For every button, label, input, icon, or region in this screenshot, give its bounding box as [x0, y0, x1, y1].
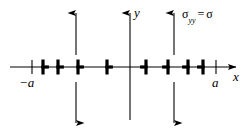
- dislocation-flag: [76, 65, 84, 68]
- tick-label-minus-a: −a: [19, 76, 34, 89]
- stress-arrows-up: [76, 13, 174, 55]
- dislocation-flag: [140, 65, 148, 68]
- stress-arrows-down: [76, 82, 174, 123]
- dislocation-right-facing: [56, 60, 64, 75]
- dislocation-left-facing: [197, 60, 205, 75]
- stress-equals: =: [196, 7, 207, 21]
- stress-subscript: yy: [188, 16, 195, 25]
- dislocation-right-facing: [41, 60, 49, 75]
- dislocation-right-facing: [105, 60, 113, 75]
- dislocation-flag: [56, 65, 64, 68]
- dislocation-pileup-figure: x y −a a σyy=σ: [0, 0, 249, 133]
- x-axis-label: x: [233, 70, 239, 83]
- dislocation-flag: [197, 65, 205, 68]
- dislocation-left-facing: [140, 60, 148, 75]
- dislocation-flag: [182, 65, 190, 68]
- dislocation-right-facing: [76, 60, 84, 75]
- stress-label: σyy=σ: [182, 8, 213, 23]
- dislocation-flag: [162, 65, 170, 68]
- dislocation-left-facing: [182, 60, 190, 75]
- dislocation-flag: [41, 65, 49, 68]
- tick-label-a: a: [212, 76, 219, 89]
- dislocation-flag: [105, 65, 113, 68]
- stress-value: σ: [206, 7, 212, 21]
- y-axis-label: y: [134, 6, 140, 19]
- dislocation-left-facing: [162, 60, 170, 75]
